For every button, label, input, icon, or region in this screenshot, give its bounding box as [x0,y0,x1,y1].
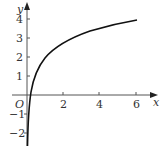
x-tick-label-4: 4 [96,98,103,111]
function-graph: y x O 2 4 6 4 3 2 1 −1 −2 [0,0,162,147]
y-tick-label-neg2: −2 [9,127,25,140]
y-axis-arrow-icon [24,2,30,10]
y-tick-label-3: 3 [16,32,23,45]
y-tick-label-neg1: −1 [9,108,25,121]
function-curve [28,20,138,146]
y-tick-label-2: 2 [16,51,23,64]
x-tick-label-6: 6 [133,98,140,111]
x-axis-label: x [153,96,160,109]
y-tick-label-4: 4 [16,13,23,26]
y-tick-label-1: 1 [16,70,23,83]
x-tick-label-2: 2 [60,98,67,111]
